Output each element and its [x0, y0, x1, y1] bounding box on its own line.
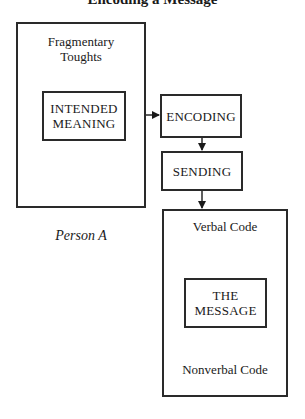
person-a-caption: Person A: [16, 228, 146, 243]
intended-meaning-line-2: MEANING: [50, 116, 117, 131]
nonverbal-code-label: Nonverbal Code: [162, 362, 288, 377]
sending-box: SENDING: [161, 151, 243, 191]
message-line-2: MESSAGE: [194, 303, 256, 318]
fragmentary-line-2: Toughts: [16, 49, 146, 64]
encoding-label: ENCODING: [166, 109, 235, 124]
intended-meaning-line-1: INTENDED: [50, 101, 117, 116]
verbal-code-label: Verbal Code: [162, 219, 288, 234]
fragmentary-line-1: Fragmentary: [16, 34, 146, 49]
intended-meaning-box: INTENDED MEANING: [42, 91, 126, 141]
encoding-box: ENCODING: [160, 94, 242, 138]
fragmentary-thoughts-label: Fragmentary Toughts: [16, 34, 146, 64]
the-message-box: THE MESSAGE: [184, 278, 267, 328]
sending-label: SENDING: [173, 164, 231, 179]
message-line-1: THE: [194, 288, 256, 303]
